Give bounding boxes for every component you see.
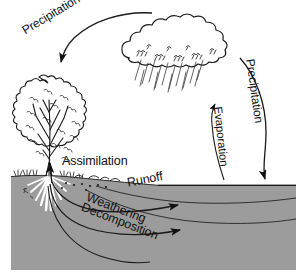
rain-cloud	[122, 14, 227, 67]
water-cycle-diagram: Precipitation Precipitation Evaporation …	[0, 0, 307, 275]
soil-cross-section	[11, 175, 296, 270]
label-assimilation: Assimilation	[62, 155, 128, 168]
